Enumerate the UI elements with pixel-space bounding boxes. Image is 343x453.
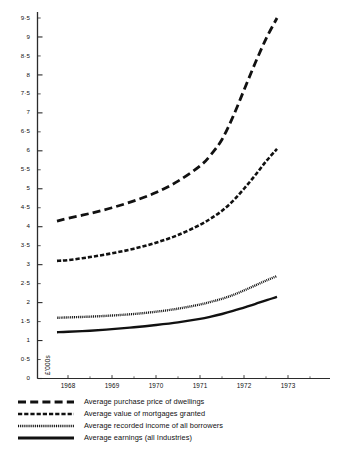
legend-swatch-solid-icon xyxy=(18,433,74,443)
legend-item: Average purchase price of dwellings xyxy=(18,396,338,407)
x-tick-label: 1972 xyxy=(227,383,261,389)
data-series-group xyxy=(57,18,277,332)
chart-legend: Average purchase price of dwellingsAvera… xyxy=(18,396,338,444)
chart-container: 00·511·522·533·544·555·566·577·588·599·5… xyxy=(0,0,343,453)
y-tick-label: 7·5 xyxy=(8,90,30,96)
series-line-2 xyxy=(57,276,277,318)
legend-item: Average value of mortgages granted xyxy=(18,408,338,419)
legend-swatch-long-dash-icon xyxy=(18,397,74,407)
x-tick-label: 1971 xyxy=(183,383,217,389)
y-tick-label: 8·5 xyxy=(8,53,30,59)
y-tick-label: 1·5 xyxy=(8,318,30,324)
x-tick-label: 1970 xyxy=(139,383,173,389)
plot-area xyxy=(0,0,343,395)
series-line-0 xyxy=(57,18,277,221)
y-tick-label: 2·5 xyxy=(8,280,30,286)
y-tick-label: 2 xyxy=(8,299,30,305)
y-tick-label: 8 xyxy=(8,72,30,78)
y-tick-label: 6·5 xyxy=(8,128,30,134)
y-tick-label: 4·5 xyxy=(8,204,30,210)
legend-label: Average earnings (all Industries) xyxy=(84,433,192,442)
y-tick-label: 9·5 xyxy=(8,15,30,21)
x-tick-label: 1968 xyxy=(51,383,85,389)
series-line-3 xyxy=(57,297,277,332)
y-tick-label: 7 xyxy=(8,109,30,115)
y-tick-label: 3·5 xyxy=(8,242,30,248)
x-tick-label: 1969 xyxy=(95,383,129,389)
y-tick-label: 9 xyxy=(8,34,30,40)
y-tick-label: 0·5 xyxy=(8,356,30,362)
y-axis-ticks xyxy=(38,18,43,379)
y-tick-label: 6 xyxy=(8,147,30,153)
y-tick-label: 3 xyxy=(8,261,30,267)
x-tick-label: 1973 xyxy=(271,383,305,389)
y-tick-label: 0 xyxy=(8,375,30,381)
axes xyxy=(38,12,331,379)
legend-label: Average recorded income of all borrowers xyxy=(84,421,223,430)
y-tick-label: 1 xyxy=(8,337,30,343)
y-tick-label: 4 xyxy=(8,223,30,229)
legend-swatch-dotted-icon xyxy=(18,421,74,431)
y-tick-label: 5·5 xyxy=(8,166,30,172)
legend-swatch-short-dash-icon xyxy=(18,409,74,419)
legend-label: Average value of mortgages granted xyxy=(84,409,205,418)
series-line-1 xyxy=(57,149,277,261)
legend-label: Average purchase price of dwellings xyxy=(84,397,204,406)
y-tick-label: 5 xyxy=(8,185,30,191)
y-axis-unit-label: £'000s xyxy=(44,355,51,375)
legend-item: Average recorded income of all borrowers xyxy=(18,420,338,431)
legend-item: Average earnings (all Industries) xyxy=(18,432,338,443)
